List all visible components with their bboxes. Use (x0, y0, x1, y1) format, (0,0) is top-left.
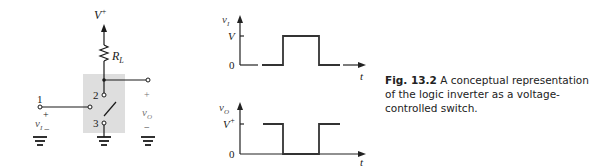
svg-text:0: 0 (229, 148, 235, 160)
supply-arrow-icon (101, 24, 107, 32)
ground-icon (33, 137, 155, 145)
output-plus: + (144, 89, 150, 100)
output-terminal (146, 78, 150, 82)
svg-text:t: t (360, 156, 364, 167)
node-3-terminal (102, 121, 106, 125)
input-minus: − (44, 124, 50, 135)
svg-text:V+: V+ (223, 116, 235, 130)
svg-text:V: V (228, 30, 236, 42)
node-1-terminal (38, 105, 42, 109)
output-minus: − (144, 122, 150, 133)
node-3-label: 3 (93, 117, 99, 129)
figure-caption: Fig. 13.2 A conceptual representation of… (385, 73, 593, 115)
node-2-label: 2 (93, 89, 99, 101)
node-1-label: 1 (37, 93, 43, 105)
node-2-terminal (102, 93, 106, 97)
figure-label: Fig. 13.2 (385, 74, 437, 86)
input-waveform: vI V 0 t (222, 13, 366, 82)
control-terminal (88, 105, 92, 109)
input-voltage-label: vI (35, 117, 43, 132)
svg-text:vO: vO (219, 101, 229, 116)
input-plus: + (43, 109, 49, 120)
resistor-rl (100, 45, 108, 61)
svg-text:0: 0 (229, 59, 235, 71)
output-voltage-label: vO (142, 106, 152, 121)
svg-text:t: t (360, 70, 364, 82)
resistor-label: RL (111, 49, 124, 65)
output-waveform: vO V+ 0 t (219, 101, 366, 167)
supply-label: V+ (94, 7, 107, 22)
svg-text:vI: vI (222, 13, 230, 28)
